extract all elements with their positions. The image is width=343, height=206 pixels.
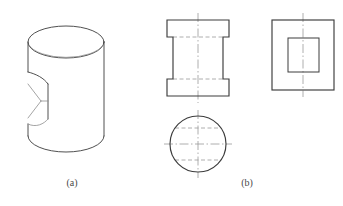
caption-a: (a) (66, 177, 77, 189)
technical-drawing-figure: (a) (b) (0, 0, 343, 206)
canvas-background (0, 0, 343, 206)
caption-b: (b) (241, 177, 253, 189)
drawing-canvas: (a) (b) (0, 0, 343, 206)
